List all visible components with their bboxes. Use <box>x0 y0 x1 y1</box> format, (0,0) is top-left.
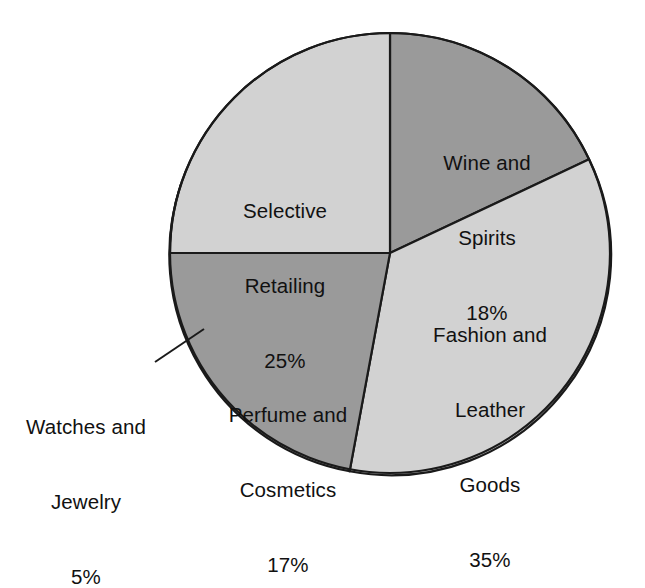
pie-label-fashion-and-leather-goods: Fashion and Leather Goods 35% <box>433 272 547 588</box>
pie-label-fashion-and-leather-goods-line2: Leather <box>433 397 547 422</box>
pie-label-watches-and-jewelry-line2: Jewelry <box>26 489 146 514</box>
pie-label-selective-retailing-line1: Selective <box>243 198 327 223</box>
pie-label-wine-and-spirits-line1: Wine and <box>443 150 530 175</box>
pie-label-wine-and-spirits-line2: Spirits <box>443 225 530 250</box>
pie-value-watches-and-jewelry: 5% <box>26 564 146 588</box>
pie-value-perfume-and-cosmetics: 17% <box>229 552 347 577</box>
pie-label-watches-and-jewelry: Watches and Jewelry 5% <box>26 364 146 588</box>
pie-label-watches-and-jewelry-line1: Watches and <box>26 414 146 439</box>
pie-value-selective-retailing: 25% <box>243 348 327 373</box>
pie-value-fashion-and-leather-goods: 35% <box>433 547 547 572</box>
pie-label-fashion-and-leather-goods-line3: Goods <box>433 472 547 497</box>
pie-label-perfume-and-cosmetics-line2: Cosmetics <box>229 477 347 502</box>
pie-label-selective-retailing-line2: Retailing <box>243 273 327 298</box>
pie-label-selective-retailing: Selective Retailing 25% <box>243 148 327 423</box>
pie-label-fashion-and-leather-goods-line1: Fashion and <box>433 322 547 347</box>
